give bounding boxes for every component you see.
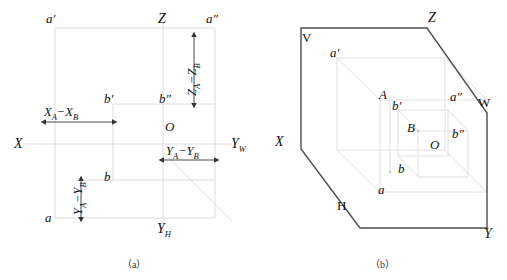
part-a-point-b: b <box>104 170 111 183</box>
part-b-x-axis-label: X <box>275 135 284 149</box>
part-a-dimension-delta-y-left: YA−YB <box>72 182 87 215</box>
part-a-point-a: a <box>45 211 52 224</box>
part-a-point-b-double-prime: b″ <box>159 92 171 105</box>
part-a-point-a-double-prime: a″ <box>206 12 218 25</box>
part-b-plane-h-label: H <box>337 199 346 212</box>
caption-b: （b） <box>370 256 395 271</box>
part-b-plane-v-label: V <box>302 31 311 44</box>
figure-canvas: X Z YW YH a′ a″ b′ b″ O b a XA−XB ZA−ZB … <box>0 0 507 280</box>
part-b-plane-w-label: W <box>478 96 490 109</box>
part-a-point-a-prime: a′ <box>46 12 55 25</box>
part-b-point-b-prime: b′ <box>392 99 401 112</box>
caption-a: （a） <box>122 256 146 271</box>
part-a-point-b-prime: b′ <box>104 92 113 105</box>
part-a-yh-axis-label: YH <box>157 222 171 238</box>
part-b-point-a-double-prime: a″ <box>450 90 462 103</box>
part-b-point-a: a <box>378 183 385 196</box>
part-a-dimension-delta-y-right: YA−YB <box>166 145 199 160</box>
part-a-dimension-delta-x: XA−XB <box>44 106 78 121</box>
part-a-dimension-delta-z: ZA−ZB <box>186 63 201 96</box>
part-b-point-b-double-prime: b″ <box>452 127 464 140</box>
part-a-z-axis-label: Z <box>158 12 166 26</box>
part-b-origin-label: O <box>430 138 439 151</box>
part-b-point-b: b <box>398 162 405 175</box>
part-b-point-B: B <box>407 121 415 134</box>
part-a-origin-label: O <box>165 120 174 133</box>
part-a-yw-axis-label: YW <box>231 137 246 153</box>
part-b-point-A: A <box>379 88 387 101</box>
part-a-construction <box>25 22 232 232</box>
part-b-y-axis-label: Y <box>484 227 492 241</box>
part-b-z-axis-label: Z <box>428 11 436 25</box>
part-a-x-axis-label: X <box>14 137 23 151</box>
part-b-point-a-prime: a′ <box>330 46 339 59</box>
